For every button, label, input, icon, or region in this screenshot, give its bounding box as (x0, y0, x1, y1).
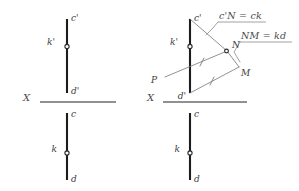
right-point-k-prime (188, 44, 192, 48)
construction-line-n-to-m (227, 51, 239, 67)
right-label-c: c (194, 109, 199, 119)
left-axis-label: X (22, 92, 31, 103)
right-label-c-prime: c' (194, 13, 202, 23)
right-label-n: N (231, 40, 241, 50)
geometry-canvas: X c' k' d' c k d (0, 0, 299, 191)
construction-line-p-to-n (165, 51, 227, 77)
right-axis-label: X (146, 92, 155, 103)
right-diagram: X c' k' d' c k d P N M c'N = ck NM = kd (146, 10, 292, 184)
geometry-figure: X c' k' d' c k d (0, 0, 299, 191)
left-point-k (65, 151, 69, 155)
right-point-n-marker (225, 49, 229, 53)
right-label-k-prime: k' (170, 37, 178, 47)
right-label-k: k (175, 144, 180, 154)
left-label-c-prime: c' (71, 13, 79, 23)
left-point-k-prime (65, 44, 69, 48)
left-label-d: d (71, 174, 77, 184)
annotation-cn: c'N = ck (219, 10, 262, 21)
leader-line-annotation-cn (206, 22, 218, 35)
left-label-k-prime: k' (47, 37, 55, 47)
right-label-p: P (150, 75, 158, 85)
left-label-c: c (71, 109, 76, 119)
annotation-nm: NM = kd (240, 30, 286, 41)
right-label-d: d (194, 174, 200, 184)
construction-line-dprime-to-m (190, 67, 239, 93)
left-diagram: X c' k' d' c k d (22, 13, 116, 184)
construction-line-cprime-to-n (190, 19, 227, 51)
left-label-d-prime: d' (71, 86, 79, 96)
right-label-m: M (240, 68, 251, 78)
right-point-k (188, 151, 192, 155)
right-label-d-prime: d' (178, 91, 186, 101)
left-label-k: k (52, 144, 57, 154)
